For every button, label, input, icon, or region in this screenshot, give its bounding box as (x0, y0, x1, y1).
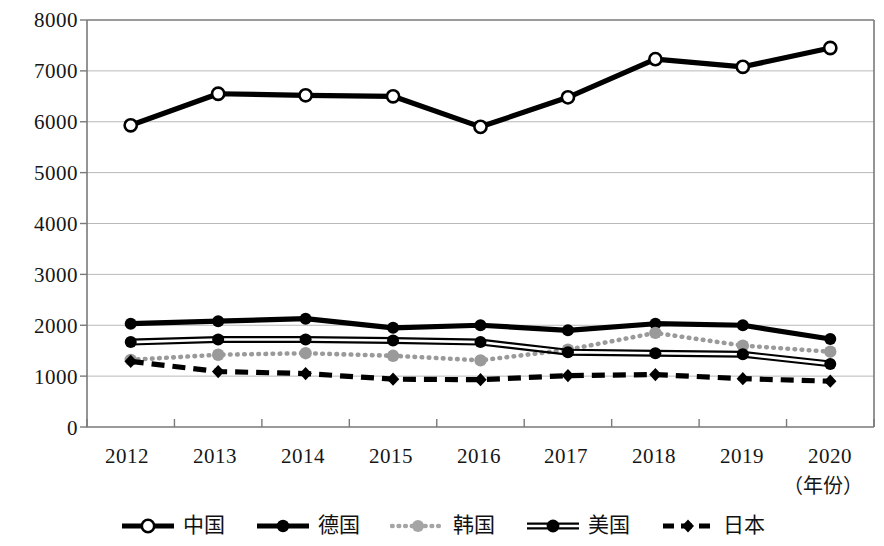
data-point (475, 319, 487, 331)
data-point (562, 324, 574, 336)
data-point (649, 53, 661, 65)
data-point (387, 90, 399, 102)
gray-dotted-circle-marker-icon (390, 517, 446, 535)
legend-label-china: 中国 (183, 515, 225, 536)
data-point (212, 349, 224, 361)
data-point (212, 88, 224, 100)
data-point (649, 368, 661, 381)
data-point (125, 119, 137, 131)
data-point (387, 335, 399, 347)
data-point (562, 369, 574, 382)
plot-area (0, 0, 884, 546)
data-point (212, 333, 224, 345)
data-point (824, 358, 836, 370)
filled-circle-double-line-marker-icon (525, 517, 581, 535)
data-point (299, 347, 311, 359)
data-point (737, 348, 749, 360)
legend-item-china[interactable]: 中国 (120, 515, 225, 536)
legend-item-germany[interactable]: 德国 (255, 515, 360, 536)
line-chart: 8000 7000 6000 5000 4000 3000 2000 1000 … (0, 0, 884, 546)
data-point (475, 336, 487, 348)
data-point (387, 350, 399, 362)
dashed-diamond-marker-icon (660, 517, 716, 535)
data-point (562, 91, 574, 103)
data-point (824, 333, 836, 345)
data-point (387, 373, 399, 386)
data-point (125, 336, 137, 348)
data-point (474, 373, 486, 386)
data-point (737, 319, 749, 331)
data-point (824, 42, 836, 54)
data-point (300, 89, 312, 101)
legend: 中国 德国 韩国 美国 (0, 505, 884, 546)
data-point (649, 327, 661, 339)
filled-circle-line-marker-icon (255, 517, 311, 535)
legend-label-germany: 德国 (318, 515, 360, 536)
data-point (299, 367, 311, 380)
data-point (562, 346, 574, 358)
series-layer (125, 42, 837, 388)
legend-item-japan[interactable]: 日本 (660, 515, 765, 536)
legend-label-japan: 日本 (723, 515, 765, 536)
legend-label-korea: 韩国 (453, 515, 495, 536)
data-point (474, 121, 486, 133)
series-china (125, 42, 837, 133)
data-point (649, 347, 661, 359)
data-point (737, 372, 749, 385)
data-point (300, 313, 312, 325)
legend-label-usa: 美国 (588, 515, 630, 536)
data-point (387, 322, 399, 334)
data-point (474, 354, 486, 366)
legend-item-korea[interactable]: 韩国 (390, 515, 495, 536)
open-circle-line-marker-icon (120, 517, 176, 535)
data-point (737, 61, 749, 73)
legend-item-usa[interactable]: 美国 (525, 515, 630, 536)
data-point (125, 318, 137, 330)
data-point (824, 346, 836, 358)
data-point (300, 333, 312, 345)
data-point (212, 315, 224, 327)
